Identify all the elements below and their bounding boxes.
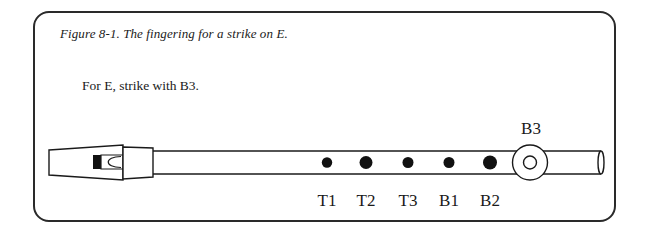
hole-b3-strike (513, 145, 548, 180)
tube-end-icon (598, 151, 604, 174)
hole-t2-closed-icon (360, 156, 373, 169)
hole-b3-open-icon (524, 156, 537, 169)
hole-t3-closed-icon (403, 157, 414, 168)
hole-label-t2: T2 (357, 191, 376, 211)
windway-block-icon (93, 155, 101, 169)
hole-b2-closed-icon (483, 156, 497, 170)
hole-t1-closed-icon (322, 157, 332, 167)
hole-label-t1: T1 (318, 191, 337, 211)
hole-b1-closed-icon (444, 157, 455, 168)
hole-label-b1: B1 (439, 191, 459, 211)
mouthpiece (49, 145, 153, 180)
hole-label-t3: T3 (399, 191, 418, 211)
hole-label-b2: B2 (480, 191, 500, 211)
hole-label-b3: B3 (521, 119, 541, 139)
